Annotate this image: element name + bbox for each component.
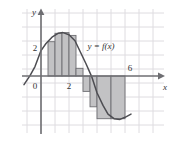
riemann-bar: [62, 33, 69, 76]
y-tick-label-2: 2: [33, 43, 38, 53]
chart-canvas: y x 2 0 2 6 y = f(x): [0, 0, 176, 142]
y-axis-label: y: [31, 7, 36, 17]
riemann-bar: [83, 76, 90, 91]
origin-tick-label: 0: [33, 81, 38, 91]
riemann-bar: [76, 68, 83, 76]
riemann-sum-figure: y x 2 0 2 6 y = f(x): [0, 0, 176, 142]
riemann-bar: [48, 42, 55, 76]
x-axis-label: x: [162, 82, 167, 92]
plot-background: [22, 9, 164, 133]
x-tick-label-6: 6: [128, 63, 133, 73]
riemann-bar: [111, 76, 125, 119]
x-tick-label-2: 2: [67, 81, 72, 91]
riemann-bar: [55, 33, 62, 76]
function-annotation-label: y = f(x): [86, 41, 114, 51]
